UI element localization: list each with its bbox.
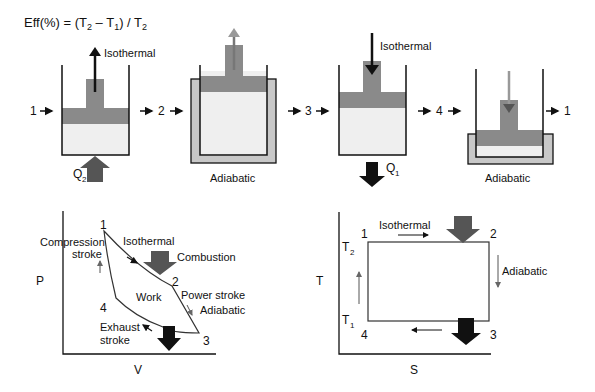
efficiency-formula: Eff(%) = (T2 – T1) / T2 (24, 15, 147, 32)
svg-text:Q: Q (73, 167, 82, 181)
heat-out-arrow-icon (359, 162, 385, 187)
svg-text:1: 1 (395, 169, 400, 178)
svg-text:2: 2 (158, 104, 165, 118)
svg-text:1: 1 (350, 321, 355, 330)
pv-diagram: P V 1 2 3 4 Compression stroke Isotherma… (36, 211, 246, 377)
svg-text:stroke: stroke (100, 334, 130, 346)
svg-text:3: 3 (203, 334, 210, 348)
exhaust-arrow-icon (157, 326, 181, 351)
arrow-up-icon (89, 47, 101, 56)
svg-text:4: 4 (361, 328, 368, 342)
svg-text:1: 1 (564, 104, 571, 118)
svg-text:1: 1 (361, 227, 368, 241)
svg-text:T: T (316, 274, 324, 288)
carnot-diagram: Eff(%) = (T2 – T1) / T2 1 2 3 4 1 Isothe… (0, 0, 595, 392)
svg-text:Adiabatic: Adiabatic (200, 304, 246, 316)
svg-text:Compression: Compression (40, 236, 105, 248)
svg-text:2: 2 (490, 227, 497, 241)
svg-text:T: T (342, 313, 350, 327)
cylinder-1-isothermal-expansion: Isothermal Q 2 (62, 47, 155, 184)
heat-out-arrow-icon (451, 318, 481, 345)
svg-text:1: 1 (100, 218, 107, 232)
svg-text:Isothermal: Isothermal (379, 219, 430, 231)
arrow-up-icon (228, 28, 240, 37)
svg-text:Isothermal: Isothermal (104, 47, 155, 59)
svg-text:3: 3 (305, 104, 312, 118)
svg-text:4: 4 (100, 301, 107, 315)
svg-text:1: 1 (30, 104, 37, 118)
svg-text:Isothermal: Isothermal (380, 40, 431, 52)
svg-text:P: P (36, 274, 44, 288)
svg-text:2: 2 (350, 248, 355, 257)
svg-text:Combustion: Combustion (177, 251, 236, 263)
heat-in-arrow-icon (446, 216, 480, 243)
svg-text:Isothermal: Isothermal (123, 235, 174, 247)
svg-text:Q: Q (386, 161, 395, 175)
cylinder-4-adiabatic-compression: Adiabatic (468, 69, 553, 184)
svg-text:T: T (342, 240, 350, 254)
svg-text:4: 4 (436, 104, 443, 118)
svg-text:Adiabatic: Adiabatic (210, 172, 256, 184)
svg-text:stroke: stroke (72, 248, 102, 260)
svg-text:2: 2 (172, 275, 179, 289)
svg-text:Work: Work (136, 291, 162, 303)
svg-text:Adiabatic: Adiabatic (502, 265, 548, 277)
ts-diagram: T S 1 2 3 4 T 2 T 1 Isothermal Adiabatic (316, 212, 548, 377)
cylinder-2-adiabatic-expansion: Adiabatic (191, 28, 276, 184)
svg-text:2: 2 (82, 175, 87, 184)
svg-text:S: S (410, 363, 418, 377)
svg-text:Exhaust: Exhaust (100, 321, 140, 333)
cylinder-3-isothermal-compression: Isothermal Q 1 (339, 33, 431, 187)
svg-text:3: 3 (490, 328, 497, 342)
svg-text:Adiabatic: Adiabatic (485, 172, 531, 184)
svg-text:Power stroke: Power stroke (181, 289, 245, 301)
svg-text:V: V (134, 363, 142, 377)
